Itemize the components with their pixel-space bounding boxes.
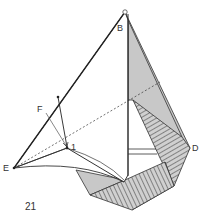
label-1: 1 [71, 143, 76, 152]
label-e: E [3, 164, 9, 173]
main-face [14, 12, 128, 182]
label-f: F [37, 105, 43, 114]
label-d: D [192, 144, 199, 153]
origami-diagram: B F 1 D E 21 [0, 0, 207, 222]
label-b: B [117, 24, 123, 33]
step-number: 21 [25, 202, 36, 212]
fold-diagram-figure [0, 0, 207, 222]
